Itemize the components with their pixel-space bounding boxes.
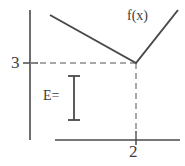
x-axis-tick-label-2: 2: [129, 143, 138, 160]
function-graph-figure: 3 2 f(x) E=: [0, 0, 185, 166]
y-axis-tick-label-3: 3: [11, 54, 20, 71]
function-curve-fx: [50, 10, 178, 63]
function-label-fx: f(x): [127, 9, 148, 23]
graph-canvas: [0, 0, 185, 166]
error-bar-bracket: [68, 76, 80, 120]
error-label-e: E=: [43, 89, 59, 103]
